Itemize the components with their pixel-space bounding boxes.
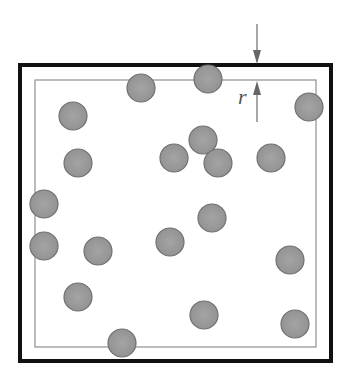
particle-circle xyxy=(30,190,58,218)
particle-circle xyxy=(204,149,232,177)
particle-circle xyxy=(281,310,309,338)
particle-circle xyxy=(198,204,226,232)
particle-circle xyxy=(156,228,184,256)
particle-circle xyxy=(190,301,218,329)
particle-circle xyxy=(276,246,304,274)
particle-circle xyxy=(295,93,323,121)
particles xyxy=(30,65,323,357)
particle-circle xyxy=(64,283,92,311)
margin-diagram: r xyxy=(0,0,343,381)
particle-circle xyxy=(194,65,222,93)
particle-circle xyxy=(160,144,188,172)
particle-circle xyxy=(127,74,155,102)
particle-circle xyxy=(59,102,87,130)
particle-circle xyxy=(257,144,285,172)
arrow-up-icon xyxy=(253,81,261,95)
arrow-down-icon xyxy=(253,50,261,64)
particle-circle xyxy=(108,329,136,357)
radius-label: r xyxy=(238,84,247,109)
dimension-marker: r xyxy=(238,24,261,122)
particle-circle xyxy=(30,232,58,260)
particle-circle xyxy=(84,237,112,265)
particle-circle xyxy=(64,149,92,177)
